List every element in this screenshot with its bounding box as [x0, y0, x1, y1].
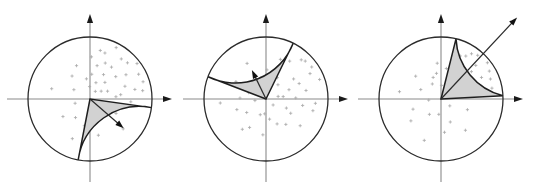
data-point: [88, 85, 91, 88]
data-point: [94, 81, 97, 84]
data-point: [480, 76, 483, 79]
data-point: [276, 83, 279, 86]
data-point: [133, 88, 136, 91]
data-point: [90, 73, 93, 76]
data-point: [314, 102, 317, 105]
data-point: [292, 77, 295, 80]
data-point: [301, 104, 304, 107]
circular-plot-panel-left: [7, 14, 172, 182]
data-point: [289, 112, 292, 115]
data-point: [219, 101, 222, 104]
data-point: [436, 62, 439, 65]
data-point: [259, 113, 262, 116]
data-point: [287, 88, 290, 91]
data-point: [245, 111, 248, 114]
data-point: [97, 134, 100, 137]
data-point: [94, 90, 97, 93]
data-point: [277, 95, 280, 98]
data-point: [466, 108, 469, 111]
data-point: [70, 74, 73, 77]
data-point: [123, 85, 126, 88]
data-point: [74, 116, 77, 119]
data-point: [288, 60, 291, 63]
panel-right-y-axis-arrowhead: [438, 14, 444, 23]
panel-middle-mean-arrow-head: [252, 70, 258, 79]
panel-middle-scatter-points: [219, 58, 322, 137]
data-point: [443, 131, 446, 134]
data-point: [299, 124, 302, 127]
data-point: [235, 108, 238, 111]
data-point: [470, 70, 473, 73]
data-point: [440, 84, 443, 87]
data-point: [120, 57, 123, 60]
panel-left-sector-wedge: [78, 99, 151, 160]
data-point: [489, 77, 492, 80]
data-point: [414, 75, 417, 78]
data-point: [398, 90, 401, 93]
data-point: [126, 61, 129, 64]
data-point: [419, 88, 422, 91]
panel-middle-y-axis-arrowhead: [263, 14, 269, 23]
data-point: [241, 128, 244, 131]
data-point: [261, 133, 264, 136]
data-point: [104, 61, 107, 64]
data-point: [464, 129, 467, 132]
data-point: [268, 118, 271, 121]
panel-left-x-axis-arrowhead: [163, 96, 172, 102]
data-point: [423, 139, 426, 142]
data-point: [50, 87, 53, 90]
data-point: [71, 137, 74, 140]
data-point: [409, 119, 412, 122]
data-point: [470, 52, 473, 55]
data-point: [486, 61, 489, 64]
data-point: [304, 60, 307, 63]
data-point: [100, 90, 103, 93]
data-point: [110, 66, 113, 69]
circular-plot-panel-right: [358, 14, 523, 182]
data-point: [137, 73, 140, 76]
data-point: [285, 106, 288, 109]
data-point: [432, 76, 435, 79]
data-point: [106, 90, 109, 93]
data-point: [428, 113, 431, 116]
data-point: [476, 54, 479, 57]
panel-middle-x-axis-arrowhead: [339, 96, 348, 102]
data-point: [245, 62, 248, 65]
data-point: [431, 82, 434, 85]
panel-left-scatter-points: [50, 46, 145, 140]
data-point: [103, 81, 106, 84]
data-point: [435, 72, 438, 75]
data-point: [318, 78, 321, 81]
data-point: [99, 49, 102, 52]
circular-plots-figure: [0, 0, 534, 191]
data-point: [75, 64, 78, 67]
data-point: [141, 89, 144, 92]
data-point: [308, 72, 311, 75]
data-point: [298, 82, 301, 85]
data-point: [61, 115, 64, 118]
data-point: [74, 102, 77, 105]
data-point: [135, 62, 138, 65]
data-point: [304, 89, 307, 92]
panel-middle-sector-wedge: [208, 43, 293, 99]
data-point: [124, 73, 127, 76]
data-point: [248, 126, 251, 129]
data-point: [449, 120, 452, 123]
data-point: [85, 77, 88, 80]
data-point: [445, 67, 448, 70]
plot-canvas: [0, 0, 534, 191]
data-point: [311, 109, 314, 112]
data-point: [282, 95, 285, 98]
data-point: [474, 64, 477, 67]
data-point: [129, 100, 132, 103]
data-point: [103, 51, 106, 54]
data-point: [276, 122, 279, 125]
panel-left-axes: [7, 14, 172, 182]
data-point: [300, 58, 303, 61]
data-point: [114, 75, 117, 78]
data-point: [272, 103, 275, 106]
data-point: [114, 112, 117, 115]
panel-right-sector-wedge: [441, 39, 503, 99]
data-point: [95, 64, 98, 67]
data-point: [448, 104, 451, 107]
